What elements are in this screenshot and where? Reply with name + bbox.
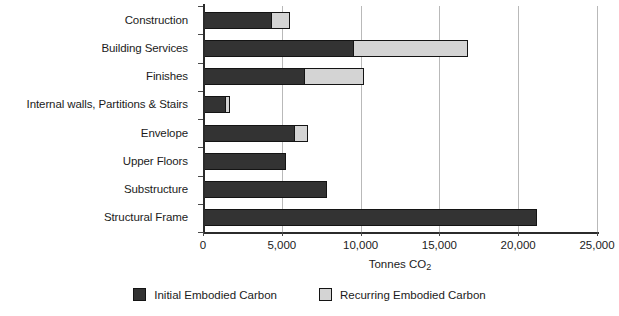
legend-item[interactable]: Initial Embodied Carbon [133,288,277,301]
category-label: Finishes [0,70,188,83]
x-axis-title: Tonnes CO2 [203,258,597,270]
x-tick-label: 25,000 [579,238,614,252]
legend-label: Initial Embodied Carbon [154,289,277,301]
x-tick-label: 15,000 [422,238,457,252]
category-label: Substructure [0,183,188,196]
bar-segment-initial[interactable] [203,209,537,226]
category-label: Internal walls, Partitions & Stairs [0,98,188,111]
x-tick-mark [597,232,598,236]
category-tick-mark [198,34,203,35]
x-tick-mark [282,232,283,236]
legend-item[interactable]: Recurring Embodied Carbon [319,288,486,301]
bar-segment-initial[interactable] [203,68,305,85]
bar-segment-recurring[interactable] [304,68,364,85]
x-tick-mark [518,232,519,236]
bar-row[interactable] [203,12,290,29]
legend-swatch-recurring [319,288,332,301]
bar-segment-initial[interactable] [203,181,327,198]
category-label: Construction [0,14,188,27]
x-tick-mark [439,232,440,236]
bar-segment-recurring[interactable] [353,40,468,57]
category-tick-mark [198,204,203,205]
bar-row[interactable] [203,181,327,198]
bar-segment-initial[interactable] [203,153,286,170]
category-tick-mark [198,147,203,148]
bar-row[interactable] [203,96,230,113]
x-tick-label: 10,000 [343,238,378,252]
category-label: Building Services [0,42,188,55]
x-axis-line [203,232,599,234]
bar-segment-initial[interactable] [203,125,295,142]
category-label: Upper Floors [0,155,188,168]
bar-segment-recurring[interactable] [225,96,230,113]
x-tick-label: 20,000 [501,238,536,252]
gridline [518,6,519,232]
x-tick-mark [203,232,204,236]
category-tick-mark [198,63,203,64]
bar-segment-recurring[interactable] [271,12,290,29]
y-axis-line [203,4,205,234]
category-label: Structural Frame [0,211,188,224]
x-tick-mark [361,232,362,236]
x-tick-label: 5,000 [267,238,296,252]
bar-row[interactable] [203,40,468,57]
legend-swatch-initial [133,288,146,301]
x-axis-title-subscript: 2 [426,262,431,272]
category-axis-labels: ConstructionBuilding ServicesFinishesInt… [0,6,196,232]
category-tick-mark [198,119,203,120]
bar-row[interactable] [203,209,537,226]
embodied-carbon-bar-chart: ConstructionBuilding ServicesFinishesInt… [0,0,619,316]
bar-row[interactable] [203,153,286,170]
chart-legend: Initial Embodied CarbonRecurring Embodie… [0,288,619,301]
gridline [597,6,598,232]
bar-segment-recurring[interactable] [294,125,308,142]
x-axis-tick-labels: 05,00010,00015,00020,00025,000 [0,238,619,254]
category-tick-mark [198,6,203,7]
legend-label: Recurring Embodied Carbon [340,289,486,301]
x-axis-title-base: Tonnes CO [369,258,427,270]
bar-segment-initial[interactable] [203,96,226,113]
bar-row[interactable] [203,68,364,85]
bar-segment-initial[interactable] [203,12,272,29]
category-tick-mark [198,91,203,92]
bar-row[interactable] [203,125,308,142]
bar-segment-initial[interactable] [203,40,354,57]
category-label: Envelope [0,127,188,140]
plot-area [203,6,597,232]
x-tick-label: 0 [200,238,206,252]
category-tick-mark [198,176,203,177]
